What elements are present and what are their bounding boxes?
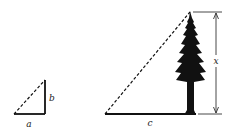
label-c: c	[147, 118, 152, 128]
large-triangle-hypotenuse	[105, 12, 190, 114]
tree-icon	[175, 11, 206, 115]
label-b: b	[49, 93, 55, 103]
small-triangle: a b	[14, 80, 55, 129]
label-x: x	[213, 56, 218, 66]
similar-triangles-diagram: a b c x	[0, 0, 232, 139]
small-triangle-hypotenuse	[14, 80, 45, 114]
label-a: a	[26, 119, 31, 129]
